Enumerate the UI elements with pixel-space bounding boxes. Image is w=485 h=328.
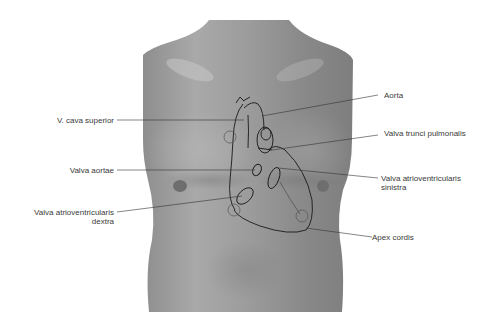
anatomy-figure bbox=[0, 0, 485, 328]
nipple-right bbox=[173, 180, 187, 192]
label-valva-trunci-pulmonalis: Valva trunci pulmonalis bbox=[384, 129, 466, 138]
label-aorta: Aorta bbox=[384, 91, 403, 100]
label-line-1: Valva atrioventricularis bbox=[381, 174, 461, 183]
label-apex-cordis: Apex cordis bbox=[372, 233, 414, 242]
label-valva-aortae: Valva aortae bbox=[70, 166, 114, 175]
label-line-2: sinistra bbox=[381, 183, 461, 192]
label-line-1: Valva atrioventricularis bbox=[34, 208, 114, 217]
label-valva-av-dextra: Valva atrioventricularis dextra bbox=[34, 208, 114, 226]
torso bbox=[143, 20, 355, 312]
nipple-left bbox=[317, 180, 329, 192]
label-valva-av-sinistra: Valva atrioventricularis sinistra bbox=[381, 174, 461, 192]
label-v-cava-superior: V. cava superior bbox=[57, 116, 114, 125]
label-line-2: dextra bbox=[34, 217, 114, 226]
